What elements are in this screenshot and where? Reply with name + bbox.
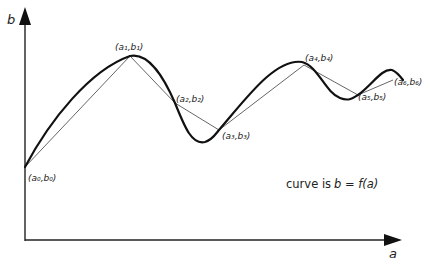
point-label-p4: (a₄,b₄) [305,53,333,63]
function-curve [25,56,403,167]
caption-prefix: curve is [286,177,331,191]
point-label-p5: (a₅,b₅) [358,92,386,102]
y-axis-arrowhead [19,7,31,25]
x-axis-label: a [389,246,397,261]
chord-polyline [25,56,393,167]
point-label-p1: (a₁,b₁) [115,42,143,52]
point-label-p3: (a₃,b₃) [222,131,250,141]
x-axis-arrowhead [384,234,402,246]
curve-approximation-diagram: b a (a₀,b₀) (a₁,b₁) (a₂,b₂) (a₃,b₃) (a₄,… [0,0,430,266]
y-axis-label: b [7,12,15,27]
point-label-p0: (a₀,b₀) [28,173,56,183]
point-label-p6: (a₆,b₆) [394,77,422,87]
caption-equation: b = f(a) [334,177,378,191]
point-label-p2: (a₂,b₂) [176,94,204,104]
